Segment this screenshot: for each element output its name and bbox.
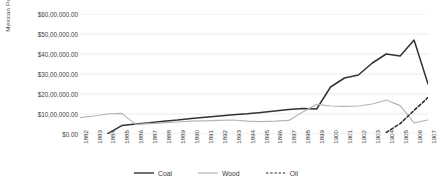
y-axis-tick-label: $20,00,000.00 <box>12 91 78 98</box>
y-axis-tick-labels: $60,00,000.00$50,00,000.00$40,00,000.00$… <box>12 0 78 183</box>
x-axis-tick-label: 1886 <box>138 130 144 160</box>
x-axis-tick-label: 1893 <box>236 130 242 160</box>
legend-item-oil: Oil <box>266 170 298 177</box>
x-axis-tick-label: 1885 <box>124 130 130 160</box>
series-line-wood <box>80 100 428 124</box>
legend-label-oil: Oil <box>290 170 298 177</box>
x-axis-tick-label: 1887 <box>152 130 158 160</box>
legend-label-coal: Coal <box>158 170 172 177</box>
oil-line-swatch <box>266 170 286 176</box>
x-axis-tick-label: 1882 <box>83 130 89 160</box>
legend-item-wood: Wood <box>198 170 240 177</box>
x-axis-tick-label: 1900 <box>333 130 339 160</box>
x-axis-tick-label: 1905 <box>403 130 409 160</box>
x-axis-tick-label: 1883 <box>97 130 103 160</box>
x-axis-tick-label: 1884 <box>110 130 116 160</box>
x-axis-tick-label: 1891 <box>208 130 214 160</box>
y-axis-tick-label: $50,00,000.00 <box>12 31 78 38</box>
y-axis-tick-label: $0.00 <box>12 131 78 138</box>
y-axis-tick-label: $10,00,000.00 <box>12 111 78 118</box>
x-axis-tick-label: 1904 <box>389 130 395 160</box>
x-axis-tick-label: 1890 <box>194 130 200 160</box>
legend-item-coal: Coal <box>134 170 172 177</box>
plot-area <box>80 14 428 134</box>
x-axis-tick-label: 1892 <box>222 130 228 160</box>
x-axis-tick-labels: 1882188318841885188618871888188918901891… <box>80 134 428 164</box>
x-axis-tick-label: 1901 <box>347 130 353 160</box>
legend-label-wood: Wood <box>222 170 240 177</box>
x-axis-tick-label: 1906 <box>417 130 423 160</box>
x-axis-tick-label: 1895 <box>264 130 270 160</box>
y-axis-tick-label: $40,00,000.00 <box>12 51 78 58</box>
coal-line-swatch <box>134 170 154 176</box>
x-axis-tick-label: 1896 <box>277 130 283 160</box>
x-axis-tick-label: 1903 <box>375 130 381 160</box>
x-axis-tick-label: 1888 <box>166 130 172 160</box>
y-axis-tick-label: $30,00,000.00 <box>12 71 78 78</box>
wood-line-swatch <box>198 170 218 176</box>
x-axis-tick-label: 1894 <box>250 130 256 160</box>
y-axis-tick-label: $60,00,000.00 <box>12 11 78 18</box>
series-line-coal <box>108 40 428 134</box>
x-axis-tick-label: 1898 <box>305 130 311 160</box>
x-axis-tick-label: 1897 <box>291 130 297 160</box>
chart-legend: Coal Wood Oil <box>0 165 432 181</box>
x-axis-tick-label: 1889 <box>180 130 186 160</box>
x-axis-tick-label: 1899 <box>319 130 325 160</box>
series-lines <box>80 14 428 134</box>
x-axis-tick-label: 1902 <box>361 130 367 160</box>
x-axis-tick-label: 1907 <box>431 130 437 160</box>
